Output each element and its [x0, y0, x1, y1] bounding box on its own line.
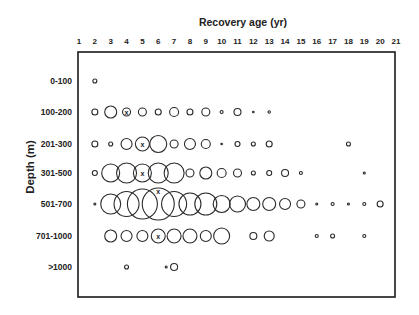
- y-category-label: 201-300: [41, 139, 72, 149]
- x-tick-label: 5: [140, 37, 145, 46]
- x-tick-label: 13: [265, 37, 274, 46]
- x-tick-label: 19: [360, 37, 369, 46]
- x-axis-tick-labels: 123456789101112131415161718192021: [77, 37, 401, 46]
- bubble: [187, 109, 193, 115]
- bubble: [200, 231, 211, 242]
- bubble-row: x: [94, 188, 383, 220]
- x-tick-label: 2: [93, 37, 98, 46]
- bubble: [137, 231, 148, 242]
- bubble: [165, 266, 167, 268]
- plot-frame: [78, 52, 395, 297]
- bubble: [315, 235, 318, 238]
- bubble-chart: Recovery age (yr) 1234567891011121314151…: [0, 0, 419, 315]
- bubble: [121, 139, 132, 150]
- y-category-label: 501-700: [41, 199, 72, 209]
- bubble: [105, 106, 117, 118]
- bubble: [346, 142, 350, 146]
- x-tick-label: 18: [344, 37, 353, 46]
- bubble: [184, 139, 195, 150]
- bubble: [105, 230, 117, 242]
- x-marker-icon: x: [156, 188, 160, 195]
- bubble: [94, 203, 96, 205]
- bubble: [220, 111, 223, 114]
- y-category-label: >1000: [48, 262, 72, 272]
- x-tick-label: 8: [188, 37, 193, 46]
- bubble: [138, 108, 146, 116]
- bubble-row: x: [92, 163, 365, 183]
- bubble: [282, 170, 289, 177]
- bubble: [251, 142, 255, 146]
- bubble: [266, 141, 272, 147]
- bubble: [253, 111, 255, 113]
- bubble: [280, 199, 291, 210]
- bubble: [213, 196, 230, 213]
- bubble: [377, 201, 383, 207]
- chart-title: Recovery age (yr): [199, 16, 287, 28]
- bubble: [363, 172, 365, 174]
- bubble-row: x: [92, 136, 351, 153]
- bubble: [93, 79, 97, 83]
- bubble-row: [125, 264, 178, 271]
- x-tick-label: 6: [156, 37, 161, 46]
- y-category-label: 0-100: [50, 76, 72, 86]
- bubble: [92, 171, 97, 176]
- x-tick-label: 7: [172, 37, 177, 46]
- bubble: [170, 140, 178, 148]
- bubble: [101, 194, 121, 214]
- bubble: [92, 109, 98, 115]
- bubble: [121, 231, 132, 242]
- bubble: [186, 169, 194, 177]
- y-category-label: 701-1000: [36, 231, 72, 241]
- x-tick-label: 1: [77, 37, 82, 46]
- x-tick-label: 20: [376, 37, 385, 46]
- x-tick-label: 3: [108, 37, 113, 46]
- x-tick-label: 21: [392, 37, 401, 46]
- bubble: [109, 142, 113, 146]
- x-marker-icon: x: [140, 170, 144, 177]
- bubble: [250, 233, 257, 240]
- bubble: [167, 229, 181, 243]
- bubble: [183, 229, 197, 243]
- bubble-row: x: [105, 228, 366, 244]
- y-axis-category-labels: 0-100100-200201-300301-500501-700701-100…: [36, 76, 72, 272]
- bubble: [316, 203, 318, 205]
- x-tick-label: 16: [312, 37, 321, 46]
- x-tick-label: 15: [296, 37, 305, 46]
- bubble: [230, 196, 246, 212]
- bubble: [221, 143, 223, 145]
- x-tick-label: 9: [204, 37, 209, 46]
- bubble: [297, 200, 305, 208]
- bubble: [247, 198, 260, 211]
- x-tick-label: 4: [124, 37, 129, 46]
- bubble: [217, 169, 226, 178]
- bubble: [150, 136, 167, 153]
- bubble: [171, 264, 178, 271]
- bubble: [263, 198, 276, 211]
- x-tick-label: 12: [249, 37, 258, 46]
- y-category-label: 301-500: [41, 168, 72, 178]
- bubble: [299, 172, 302, 175]
- bubble: [92, 141, 98, 147]
- bubble: [125, 265, 129, 269]
- bubble: [264, 231, 274, 241]
- bubble: [363, 203, 366, 206]
- bubble: [201, 140, 210, 149]
- bubble: [164, 163, 184, 183]
- bubble-row: [93, 79, 97, 83]
- bubble: [155, 109, 161, 115]
- bubble: [251, 171, 255, 175]
- bubble: [267, 171, 272, 176]
- bubble: [114, 192, 139, 217]
- bubble: [347, 203, 349, 205]
- bubble-row: x: [92, 106, 271, 118]
- bubble: [331, 203, 334, 206]
- x-tick-label: 17: [328, 37, 337, 46]
- bubble: [331, 234, 335, 238]
- bubble: [235, 142, 240, 147]
- y-axis-title: Depth (m): [24, 140, 36, 194]
- x-tick-label: 11: [233, 37, 242, 46]
- bubble: [170, 108, 179, 117]
- x-tick-label: 10: [217, 37, 226, 46]
- bubble: [363, 235, 366, 238]
- x-marker-icon: x: [125, 109, 129, 116]
